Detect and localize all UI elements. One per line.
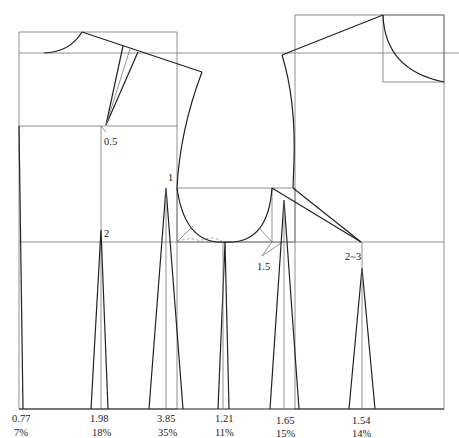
dart-percent: 35% — [158, 427, 178, 438]
dart-amount: 1.21 — [215, 413, 233, 424]
dart-percent: 15% — [276, 428, 296, 438]
dart-amount: 1.54 — [352, 415, 371, 426]
dart-percent: 7% — [14, 427, 28, 438]
dart-amount: 1.65 — [276, 415, 294, 426]
dart-percent: 11% — [215, 427, 234, 438]
apex-label-2: 2 — [104, 228, 109, 239]
back-dart-apex-label: 2~3 — [345, 251, 361, 262]
apex-label-1: 1 — [168, 172, 173, 183]
dart-percent: 14% — [352, 428, 372, 438]
shoulder-dart-label: 0.5 — [104, 136, 117, 147]
front-neckline-shoulder — [44, 32, 202, 188]
back-neckline-shoulder — [282, 15, 444, 188]
dart-amounts: 0.77 7% 1.98 18% 3.85 35% 1.21 11% 1.65 … — [12, 413, 372, 438]
front-bodice-frame — [19, 32, 459, 409]
dart-amount: 3.85 — [157, 413, 175, 424]
dart-percent: 18% — [92, 427, 112, 438]
waist-darts — [19, 126, 375, 409]
dart-amount: 0.77 — [12, 413, 30, 424]
armhole-bottom — [177, 188, 361, 256]
dart-amount: 1.98 — [90, 413, 108, 424]
pattern-diagram: 0.5 1 2 1.5 2~3 0.77 7% 1.98 18% 3.85 35… — [0, 0, 459, 438]
armhole-offset-label: 1.5 — [257, 261, 270, 272]
